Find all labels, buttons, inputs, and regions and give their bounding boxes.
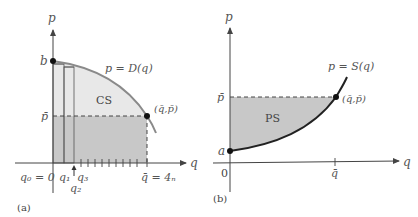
panel-b: p q a 0 p̄ p = S(q) PS (q̄,p̄) q̄ (b) (213, 10, 411, 204)
q2-arrow-icon (72, 165, 77, 176)
equilibrium-label-b: (q̄,p̄) (342, 93, 366, 104)
origin-label-b: 0 (221, 167, 228, 180)
producer-surplus-region (230, 97, 336, 151)
caption-b: (b) (213, 193, 227, 204)
expenditure-region (53, 116, 147, 163)
panel-a: p q b p̄ p = D(q) CS (q̄,p̄) q₀ = 0 q₁ q… (15, 11, 198, 213)
qbar-label-b: q̄ (331, 167, 338, 180)
price-label-a: p̄ (41, 110, 48, 123)
intercept-b-point (50, 58, 56, 64)
supply-curve-label: p = S(q) (328, 60, 374, 73)
equilibrium-point-a (144, 113, 150, 119)
caption-a: (a) (17, 202, 31, 213)
intercept-a-point (227, 148, 233, 154)
qbar-label-a: q̄ = 4ₙ (141, 171, 176, 184)
producer-surplus-label: PS (265, 112, 280, 125)
demand-curve-label: p = D(q) (105, 62, 153, 75)
intercept-b-label: b (40, 54, 48, 68)
q1-label: q₁ (59, 171, 70, 184)
q0-label: q₀ = 0 (20, 171, 55, 184)
y-axis-label-b: p (225, 10, 233, 24)
x-axis-label-a: q (190, 156, 198, 170)
q2-label: q₂ (70, 182, 81, 195)
y-axis-label-a: p (48, 11, 56, 25)
equilibrium-label-a: (q̄,p̄) (154, 103, 178, 114)
x-axis-label-b: q (403, 155, 411, 169)
equilibrium-point-b (333, 94, 339, 100)
price-label-b: p̄ (217, 91, 224, 104)
diagram-canvas: p q b p̄ p = D(q) CS (q̄,p̄) q₀ = 0 q₁ q… (0, 0, 418, 217)
x-axis-b (213, 161, 399, 163)
intercept-a-label: a (218, 144, 225, 158)
consumer-surplus-label: CS (96, 94, 112, 107)
